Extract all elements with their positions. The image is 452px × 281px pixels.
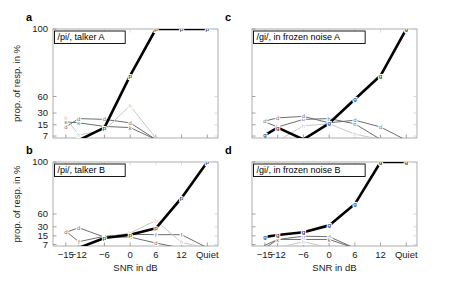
condition-label-c: /gi/, in frozen noise A <box>254 31 366 44</box>
figure-container: kkkkkkkkddddddddhhhhhhhhpppppppppp/pi/, … <box>0 0 452 281</box>
condition-label-text-a: /pi/, talker A <box>58 32 105 42</box>
point-label-b-d-0: d <box>64 229 67 235</box>
y-tick-label-b-0: 100 <box>32 156 48 167</box>
point-label-c-g-0: g <box>263 131 267 138</box>
x-tick-label-d-3: 0 <box>326 249 331 260</box>
point-label-d-g-2: g <box>302 228 306 235</box>
panel-b: ffffffffffffddddddddddhhhhhhhhpppppppppp… <box>11 144 219 273</box>
x-tick-label-d-2: −6 <box>298 249 309 260</box>
condition-label-text-c: /gi/, in frozen noise A <box>257 32 341 42</box>
point-label-c-g-1: g <box>276 124 280 131</box>
point-label-a-p-6: p <box>206 25 210 32</box>
y-tick-label-a-3: 15 <box>37 119 48 130</box>
x-tick-label-b-5: 12 <box>176 249 187 260</box>
point-label-c-d-2: d <box>302 113 305 119</box>
x-tick-label-d-5: 12 <box>375 249 386 260</box>
point-label-a-d-0: d <box>64 124 67 130</box>
point-label-c-g-5: g <box>379 72 383 79</box>
point-label-a-p-3: p <box>128 72 132 79</box>
point-label-b-h-4: h <box>154 218 157 224</box>
x-tick-label-b-1: −12 <box>71 249 87 260</box>
condition-label-a: /pi/, talker A <box>55 31 126 44</box>
point-label-b-p-4: p <box>154 224 158 231</box>
multi-panel-chart: kkkkkkkkddddddddhhhhhhhhpppppppppp/pi/, … <box>0 0 452 281</box>
point-label-d-g-3: g <box>327 221 331 228</box>
point-label-b-p-2: p <box>103 234 107 241</box>
point-label-a-p-4: p <box>154 25 158 32</box>
x-tick-label-b-3: 0 <box>127 249 132 260</box>
point-label-c-d-1: d <box>276 115 279 121</box>
point-label-b-d-1: d <box>77 225 80 231</box>
condition-label-b: /pi/, talker B <box>55 164 126 177</box>
x-axis-title-b: SNR in dB <box>113 262 157 273</box>
panel-letter-b: b <box>26 144 33 156</box>
x-axis-title-d: SNR in dB <box>312 262 356 273</box>
point-label-d-g-1: g <box>276 231 280 238</box>
point-label-a-p-2: p <box>103 124 107 131</box>
condition-label-text-b: /pi/, talker B <box>58 165 106 175</box>
y-tick-label-a-4: 7 <box>43 130 48 141</box>
point-label-c-h-2: h <box>302 123 305 129</box>
y-tick-label-b-4: 7 <box>43 239 48 250</box>
y-axis-title-a: prop. of resp. in % <box>11 44 22 122</box>
point-label-c-g-3: g <box>327 119 331 126</box>
y-tick-label-a-0: 100 <box>32 23 48 34</box>
point-label-c-d-0: d <box>263 118 266 124</box>
panel-c: bbbbbbbbbbddddddddddddhhhhhhgggggggggggg… <box>225 11 417 141</box>
y-tick-label-a-2: 30 <box>37 107 48 118</box>
panel-letter-c: c <box>225 11 231 23</box>
x-tick-label-d-1: −12 <box>270 249 286 260</box>
point-label-c-d-5: d <box>379 124 382 130</box>
point-label-d-g-4: g <box>353 200 357 207</box>
point-label-d-k-3: k <box>328 237 331 243</box>
point-label-a-d-2: d <box>103 116 106 122</box>
panel-a: kkkkkkkkddddddddhhhhhhhhpppppppppp/pi/, … <box>11 11 218 141</box>
panel-d: ddddddkkkkkkhhgggggggggggggg/gi/, in fro… <box>225 144 418 273</box>
y-tick-label-b-1: 60 <box>37 208 48 219</box>
x-tick-label-d-4: 6 <box>352 249 357 260</box>
x-tick-label-b-6: Quiet <box>196 249 219 260</box>
point-label-c-h-4: h <box>353 131 356 137</box>
condition-label-d: /gi/, in frozen noise B <box>254 164 366 177</box>
point-label-a-d-1: d <box>77 116 80 122</box>
point-label-b-p-3: p <box>128 231 132 238</box>
panel-letter-a: a <box>26 11 33 23</box>
point-label-a-h-0: h <box>64 115 67 121</box>
point-label-a-p-5: p <box>180 25 184 32</box>
x-tick-label-d-6: Quiet <box>395 249 418 260</box>
point-label-b-d-4: d <box>154 240 157 246</box>
point-label-a-d-3: d <box>129 120 132 126</box>
point-label-c-g-6: g <box>405 25 409 32</box>
point-label-c-g-4: g <box>353 95 357 102</box>
y-axis-title-b: prop. of resp. in % <box>11 165 22 243</box>
y-tick-label-a-1: 60 <box>37 91 48 102</box>
x-tick-label-b-2: −6 <box>99 249 110 260</box>
point-label-c-d-4: d <box>353 117 356 123</box>
plot-frame-c <box>252 29 417 138</box>
point-label-a-h-3: h <box>129 103 132 109</box>
point-label-b-p-5: p <box>180 194 184 201</box>
condition-label-text-d: /gi/, in frozen noise B <box>257 165 341 175</box>
point-label-d-g-0: g <box>263 233 267 240</box>
point-label-d-h-2: h <box>302 239 305 245</box>
x-tick-label-b-4: 6 <box>153 249 158 260</box>
panel-letter-d: d <box>225 144 232 156</box>
point-label-a-h-1: h <box>77 132 80 138</box>
point-label-b-h-5: h <box>180 239 183 245</box>
